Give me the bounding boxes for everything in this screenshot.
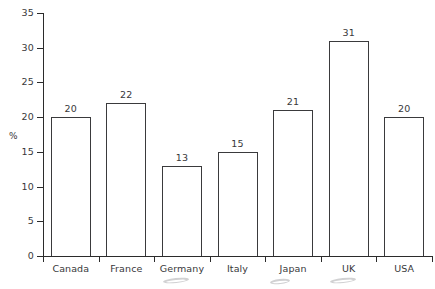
- bar-value-label: 20: [374, 104, 434, 114]
- bar-value-label: 22: [96, 90, 156, 100]
- x-axis-category-label: France: [99, 264, 155, 274]
- x-axis-category-label: UK: [321, 264, 377, 274]
- x-axis-category-label: Japan: [265, 264, 321, 274]
- bar-value-label: 20: [41, 104, 101, 114]
- y-axis-unit-label: %: [9, 132, 18, 141]
- y-axis-tick-label: 25: [4, 77, 34, 87]
- scan-smudge: [330, 277, 356, 285]
- bar-value-label: 15: [208, 139, 268, 149]
- bar-value-label: 13: [152, 153, 212, 163]
- x-axis-separator-tick: [99, 256, 100, 262]
- bar-value-label: 21: [263, 97, 323, 107]
- x-axis-separator-tick: [432, 256, 433, 262]
- x-axis-separator-tick: [43, 256, 44, 262]
- bar: [162, 166, 202, 256]
- bar: [384, 117, 424, 256]
- x-axis-category-label: USA: [376, 264, 432, 274]
- bar-chart: % 05101520253035 20221315213120 CanadaFr…: [0, 0, 435, 289]
- y-axis-tick-label: 20: [4, 112, 34, 122]
- bar: [106, 103, 146, 256]
- bar: [51, 117, 91, 256]
- bar: [218, 152, 258, 256]
- x-axis-separator-tick: [321, 256, 322, 262]
- x-axis-line: [43, 256, 432, 257]
- y-axis-tick-label: 0: [4, 251, 34, 261]
- x-axis-separator-tick: [154, 256, 155, 262]
- x-axis-separator-tick: [265, 256, 266, 262]
- y-axis-tick-label: 5: [4, 216, 34, 226]
- x-axis-category-label: Canada: [43, 264, 99, 274]
- x-axis-separator-tick: [376, 256, 377, 262]
- bar: [329, 41, 369, 256]
- scan-smudge: [163, 277, 189, 285]
- x-axis-category-label: Germany: [154, 264, 210, 274]
- bar-value-label: 31: [319, 28, 379, 38]
- y-axis-tick-label: 30: [4, 43, 34, 53]
- y-axis-tick-label: 35: [4, 8, 34, 18]
- plot-area: [43, 13, 432, 256]
- y-axis-tick-label: 10: [4, 182, 34, 192]
- y-axis-tick-label: 15: [4, 147, 34, 157]
- bar: [273, 110, 313, 256]
- x-axis-category-label: Italy: [210, 264, 266, 274]
- scan-smudge: [270, 278, 290, 285]
- x-axis-separator-tick: [210, 256, 211, 262]
